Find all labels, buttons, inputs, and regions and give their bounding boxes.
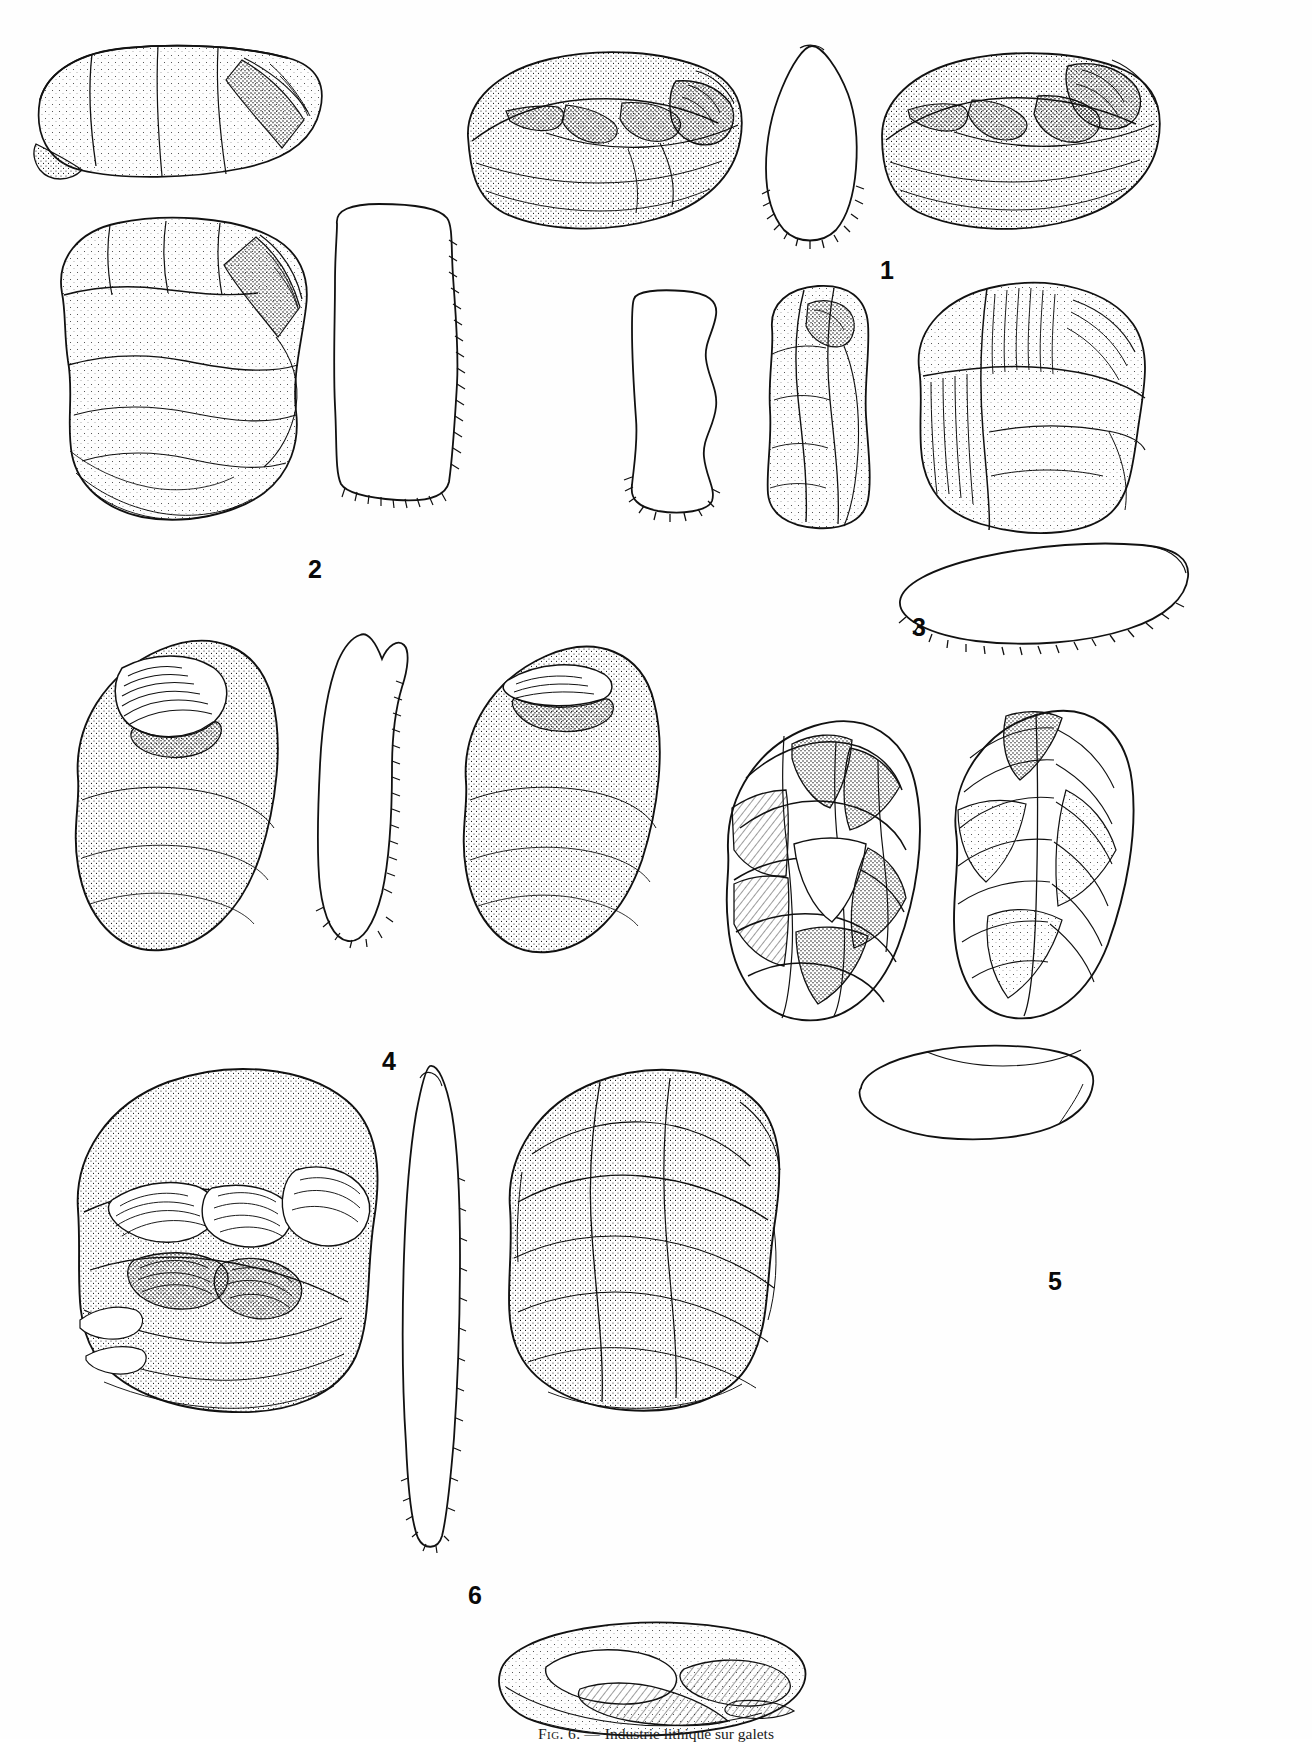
artifact-6-section <box>380 1058 490 1558</box>
artifact-4-face-b <box>448 638 668 958</box>
item-label-5: 5 <box>1048 1269 1062 1294</box>
artifact-5-face-b <box>928 700 1148 1030</box>
figure-caption: Fig. 6. — Industrie lithique sur galets <box>0 1724 1312 1744</box>
artifact-3-broad-face <box>895 272 1155 542</box>
figure-caption-number: Fig. 6. <box>538 1725 580 1742</box>
artifact-6-face-b <box>492 1062 782 1412</box>
artifact-2-upper-fragment <box>30 40 350 205</box>
artifact-1-section <box>760 40 870 260</box>
item-label-2: 2 <box>308 557 322 582</box>
artifact-4-face-a <box>58 630 288 960</box>
item-label-6: 6 <box>468 1583 482 1608</box>
artifact-4-section <box>298 625 428 955</box>
item-label-4: 4 <box>382 1049 396 1074</box>
item-label-1: 1 <box>880 258 894 283</box>
artifact-3-narrow-face <box>748 280 888 535</box>
artifact-3-basal-section <box>890 535 1200 665</box>
artifact-1-ventral-face <box>868 48 1168 243</box>
artifact-6-face-a <box>60 1060 390 1420</box>
artifact-1-dorsal-face <box>450 45 750 245</box>
artifact-5-face-a <box>710 708 930 1028</box>
artifact-2-section <box>325 200 465 510</box>
artifact-3-section-left <box>618 285 728 520</box>
artifact-2-main-face <box>34 215 324 535</box>
item-label-3: 3 <box>912 615 926 640</box>
artifact-5-section <box>855 1030 1105 1150</box>
figure-caption-dash: — <box>584 1725 601 1742</box>
figure-caption-text: Industrie lithique sur galets <box>605 1725 774 1742</box>
